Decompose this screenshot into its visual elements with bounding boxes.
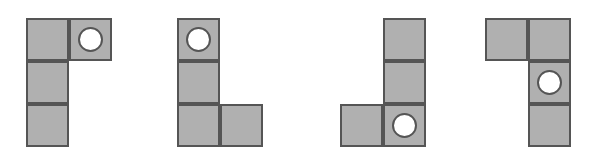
shape-4-cell-bottom-right [528,104,571,147]
shape-4-cell-top-left [485,18,528,61]
shape-4-marker-circle [537,70,562,95]
tile-shape-4 [0,0,602,159]
figure-canvas [0,0,602,159]
shape-4-cell-top-right [528,18,571,61]
